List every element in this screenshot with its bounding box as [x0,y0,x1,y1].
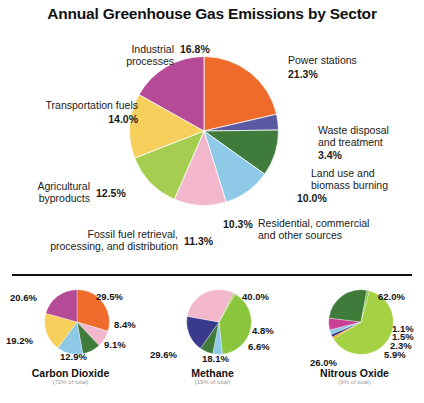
ch4-value-4: 18.1% [202,353,229,364]
page-title: Annual Greenhouse Gas Emissions by Secto… [0,5,424,23]
carbon-dioxide-title: Carbon Dioxide [0,367,141,379]
co2-value-1: 29.5% [96,291,123,302]
co2-value-2: 8.4% [114,319,136,330]
sub-chart-methane: 40.0% 4.8% 6.6% 18.1% 29.6% Methane (19%… [142,281,283,403]
carbon-dioxide-note: (72% of total) [0,379,141,385]
label-industrial-line1: Industrial [131,43,174,55]
gas-breakdown-row: 29.5% 8.4% 9.1% 12.9% 19.2% 20.6% Carbon… [0,281,424,403]
label-land-use: Land use and biomass burning [311,168,388,191]
nitrous-oxide-title: Nitrous Oxide [284,367,424,379]
sub-chart-nitrous-oxide: 62.0% 1.1% 1.5% 2.3% 5.9% 26.0% Nitrous … [284,281,424,403]
label-industrial-processes: Industrial processes [108,44,174,67]
nitrous-oxide-note: (9% of total) [284,379,424,385]
label-power-stations: Power stations [288,55,357,67]
ch4-value-3: 6.6% [248,341,270,352]
pie-slice [329,290,367,322]
label-industrial-line2: processes [126,55,174,67]
label-waste-disposal: Waste disposal and treatment [318,125,389,148]
value-waste-disposal: 3.4% [318,150,342,162]
label-resid-line1: Residential, commercial [258,217,369,229]
greenhouse-gas-figure: Annual Greenhouse Gas Emissions by Secto… [0,0,424,403]
label-agricultural-byproducts: Agricultural byproducts [8,181,90,204]
sub-chart-carbon-dioxide: 29.5% 8.4% 9.1% 12.9% 19.2% 20.6% Carbon… [0,281,141,403]
n2o-value-5: 5.9% [384,349,406,360]
value-power-stations: 21.3% [288,69,318,81]
ch4-value-5: 29.6% [150,349,177,360]
label-fossil-line1: Fossil fuel retrieval, [88,228,178,240]
co2-value-5: 19.2% [6,335,33,346]
label-fossil-line2: processing, and distribution [50,240,178,252]
section-divider [12,274,412,276]
label-land-line2: biomass burning [311,179,388,191]
co2-value-6: 20.6% [10,292,37,303]
label-transportation-fuels: Transportation fuels [10,100,138,112]
co2-value-4: 12.9% [60,351,87,362]
value-agricultural-byproducts: 12.5% [96,188,126,200]
value-transportation-fuels: 14.0% [10,114,138,126]
label-agri-line2: byproducts [39,192,90,204]
n2o-value-1: 62.0% [378,291,405,302]
label-residential-commercial: Residential, commercial and other source… [258,218,369,241]
methane-title: Methane [142,367,283,379]
label-waste-line1: Waste disposal [318,124,389,136]
methane-note: (19% of total) [142,379,283,385]
main-pie-svg [128,55,280,207]
label-resid-line2: and other sources [258,229,342,241]
label-waste-line2: and treatment [318,136,383,148]
ch4-value-2: 4.8% [252,325,274,336]
co2-value-3: 9.1% [104,339,126,350]
value-land-use: 10.0% [297,193,327,205]
label-land-line1: Land use and [311,167,375,179]
label-fossil-fuel-retrieval: Fossil fuel retrieval, processing, and d… [2,229,178,252]
main-pie-chart [128,55,280,207]
ch4-value-1: 40.0% [242,291,269,302]
value-fossil-fuel-retrieval: 11.3% [184,236,213,248]
value-industrial-processes: 16.8% [180,44,210,56]
value-residential-commercial: 10.3% [223,219,253,231]
label-agri-line1: Agricultural [37,180,90,192]
